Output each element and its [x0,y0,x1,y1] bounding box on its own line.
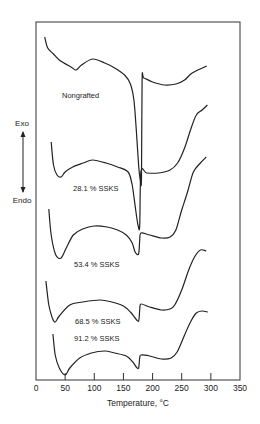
curve-label: 53.4 % SSKS [74,260,119,269]
curve-28-1-ssks [51,105,207,230]
x-tick-label: 350 [233,383,247,393]
exo-endo-arrow-icon [21,131,26,193]
x-tick-label: 50 [60,383,70,393]
curve-label: Nongrafted [62,91,99,100]
plot-frame [36,22,240,380]
x-tick-label: 250 [175,383,189,393]
x-tick-label: 150 [116,383,130,393]
dsc-thermogram-chart: 050100150200250300350 Nongrafted28.1 % S… [0,0,260,424]
curve-nongrafted [45,37,207,186]
x-axis-label: Temperature, °C [107,398,169,408]
curve-68-5-ssks [46,250,206,322]
x-axis-ticks: 050100150200250300350 [34,373,248,393]
x-tick-label: 200 [145,383,159,393]
curve-label: 28.1 % SSKS [73,184,118,193]
x-tick-label: 0 [34,383,39,393]
curve-label: 68.5 % SSKS [75,317,120,326]
x-tick-label: 300 [204,383,218,393]
curve-labels: Nongrafted28.1 % SSKS53.4 % SSKS68.5 % S… [62,91,120,343]
curves [45,37,208,375]
curve-label: 91.2 % SSKS [74,334,119,343]
x-tick-label: 100 [87,383,101,393]
exo-label: Exo [15,119,29,128]
endo-label: Endo [13,196,32,205]
